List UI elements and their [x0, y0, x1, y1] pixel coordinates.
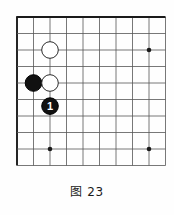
stone-disc[interactable]: [25, 75, 42, 92]
figure-caption: 图 23: [0, 182, 174, 199]
stone-disc[interactable]: [42, 75, 59, 92]
go-board-canvas[interactable]: 1: [0, 0, 174, 178]
go-stone-white[interactable]: [42, 42, 59, 59]
go-stone-white[interactable]: [42, 75, 59, 92]
go-figure: 1 图 23: [0, 0, 174, 215]
stone-disc[interactable]: [42, 42, 59, 59]
go-stone-black[interactable]: 1: [42, 98, 59, 115]
board-grid: [16, 16, 165, 165]
go-stone-black[interactable]: [25, 75, 42, 92]
stone-move-number: 1: [47, 100, 53, 112]
star-point-bottom-right: [147, 147, 152, 152]
board-stones[interactable]: 1: [25, 42, 58, 115]
star-point-right: [147, 48, 152, 53]
go-board[interactable]: 1: [0, 0, 174, 178]
star-point-bottom-left: [48, 147, 53, 152]
